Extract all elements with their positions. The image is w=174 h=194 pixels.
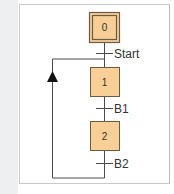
transition-label-b1: B1 [114,102,129,116]
grafcet-diagram: 0 Start 1 B1 2 B2 [0,0,174,194]
up-arrow-icon [47,71,58,82]
step-label: 0 [102,22,108,33]
transition-label-b2: B2 [114,157,129,171]
step-label: 2 [102,131,108,142]
step-0[interactable]: 0 [90,13,120,43]
transition-label-start: Start [114,47,140,61]
step-label: 1 [102,77,108,88]
step-2[interactable]: 2 [91,122,120,151]
step-1[interactable]: 1 [91,68,120,97]
